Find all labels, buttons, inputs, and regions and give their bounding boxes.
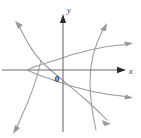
curve-lower-left-branch <box>16 61 41 129</box>
arrowhead-right-branch-top <box>100 23 107 31</box>
y-axis-arrowhead <box>60 14 66 23</box>
arrowhead-lower-left <box>13 125 20 134</box>
axes-group <box>2 14 126 132</box>
curve-group <box>13 21 133 134</box>
x-axis-label: x <box>128 66 133 76</box>
arrowhead-parabola-upper-right <box>124 42 133 47</box>
arrowhead-lower-right-long <box>102 120 111 126</box>
origin-label: 0 <box>55 74 60 84</box>
coordinate-plane-figure: x y 0 <box>0 0 141 138</box>
arrowhead-parabola-lower-right <box>124 95 133 100</box>
arrowhead-upper-left <box>15 21 23 29</box>
y-axis-label: y <box>66 5 71 15</box>
figure-container: x y 0 <box>0 0 141 138</box>
x-axis-arrowhead <box>117 67 126 73</box>
